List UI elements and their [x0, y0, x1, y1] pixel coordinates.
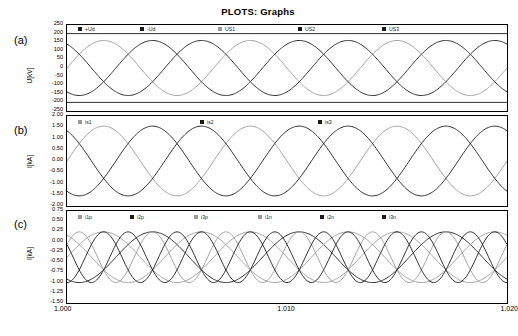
legend-swatch-icon: [318, 120, 322, 124]
legend-label: is2: [207, 119, 214, 125]
panel-c-ytick: -1.00: [50, 279, 63, 285]
panel-a-ytick: -200: [52, 99, 63, 105]
panel-b-ytick: 0.50: [52, 146, 63, 152]
panel-b-ytick: -1.00: [50, 180, 63, 186]
panel-a-ytick: 50: [57, 56, 63, 62]
legend-item-i3n[interactable]: i3n: [382, 214, 396, 220]
x-axis-ticks: 1.000 1.010 1.020: [54, 305, 518, 312]
panel-c-plot[interactable]: [66, 210, 508, 304]
panel-b-curves: [67, 116, 507, 206]
legend-item-US2[interactable]: US2: [298, 26, 315, 32]
panel-c-ytick: 0.25: [52, 228, 63, 234]
x-tick-1: 1.010: [277, 305, 295, 312]
legend-label: i2n: [327, 214, 334, 220]
legend-swatch-icon: [78, 27, 82, 31]
panel-b-ytick: -1.50: [50, 191, 63, 197]
panel-b-ytick: 2.00: [52, 112, 63, 118]
panel-a-ytick: 200: [54, 30, 63, 36]
legend-label: US1: [225, 26, 235, 32]
panel-b-ytick: -0.50: [50, 168, 63, 174]
series-i1p: [67, 232, 507, 283]
legend-item-is3[interactable]: is3: [318, 119, 332, 125]
legend-swatch-icon: [382, 215, 386, 219]
panel-a-ylabel: U[kV]: [26, 46, 33, 106]
legend-label: is1: [85, 119, 92, 125]
legend-swatch-icon: [320, 215, 324, 219]
legend-label: US2: [305, 26, 315, 32]
panel-b-plot[interactable]: [66, 115, 508, 207]
legend-label: -Ud: [147, 26, 155, 32]
legend-swatch-icon: [382, 27, 386, 31]
legend-label: US3: [389, 26, 399, 32]
legend-swatch-icon: [130, 215, 134, 219]
panel-c-ytick: -0.75: [50, 269, 63, 275]
series-US1: [67, 40, 507, 95]
panel-a-ytick: 0: [60, 64, 63, 70]
panel-a-plot[interactable]: [66, 24, 508, 112]
legend-label: is3: [325, 119, 332, 125]
legend-item--Ud[interactable]: -Ud: [140, 26, 155, 32]
panel-a-ytick: -150: [52, 90, 63, 96]
legend-item-i3p[interactable]: i3p: [194, 214, 208, 220]
panel-a-ytick: 150: [54, 38, 63, 44]
page-title: PLOTS: Graphs: [0, 6, 516, 17]
panel-a-ytick: 250: [54, 21, 63, 27]
legend-item-is2[interactable]: is2: [200, 119, 214, 125]
legend-swatch-icon: [298, 27, 302, 31]
series-is1: [67, 126, 507, 196]
panel-a-curves: [67, 25, 507, 111]
legend-swatch-icon: [78, 215, 82, 219]
legend-item-i1p[interactable]: i1p: [78, 214, 92, 220]
legend-item-US1[interactable]: US1: [218, 26, 235, 32]
legend-item-i1n[interactable]: i1n: [258, 214, 272, 220]
legend-label: i2p: [137, 214, 144, 220]
panel-a-label: (a): [14, 34, 27, 46]
x-tick-0: 1.000: [54, 305, 72, 312]
panel-c-ytick: -1.25: [50, 289, 63, 295]
legend-label: i3p: [201, 214, 208, 220]
legend-item-+Ud[interactable]: +Ud: [78, 26, 95, 32]
legend-label: i1n: [265, 214, 272, 220]
legend-item-US3[interactable]: US3: [382, 26, 399, 32]
legend-label: i1p: [85, 214, 92, 220]
panel-c-ytick: -1.50: [50, 299, 63, 305]
legend-swatch-icon: [200, 120, 204, 124]
panel-a-ytick: -100: [52, 81, 63, 87]
panel-b-ylabel: I[kA]: [26, 132, 33, 192]
legend-swatch-icon: [140, 27, 144, 31]
panel-a-ytick: -50: [55, 73, 63, 79]
panel-c-ytick: 0.75: [52, 207, 63, 213]
x-tick-2: 1.020: [500, 305, 518, 312]
panel-c-ylabel: I[kA]: [26, 224, 33, 284]
legend-swatch-icon: [218, 27, 222, 31]
panel-c-ytick: 0.00: [52, 238, 63, 244]
legend-item-i2p[interactable]: i2p: [130, 214, 144, 220]
legend-swatch-icon: [258, 215, 262, 219]
panel-c-ytick: 0.50: [52, 217, 63, 223]
legend-swatch-icon: [78, 120, 82, 124]
panel-b-ytick: 0.00: [52, 157, 63, 163]
panel-c-ytick: -0.25: [50, 248, 63, 254]
panel-a-ytick: 100: [54, 47, 63, 53]
panel-b-ytick: 1.50: [52, 123, 63, 129]
legend-label: +Ud: [85, 26, 95, 32]
legend-item-i2n[interactable]: i2n: [320, 214, 334, 220]
legend-swatch-icon: [194, 215, 198, 219]
legend-item-is1[interactable]: is1: [78, 119, 92, 125]
legend-label: i3n: [389, 214, 396, 220]
panel-b-ytick: 1.00: [52, 135, 63, 141]
panel-c-ytick: -0.50: [50, 258, 63, 264]
panel-c-curves: [67, 211, 507, 303]
